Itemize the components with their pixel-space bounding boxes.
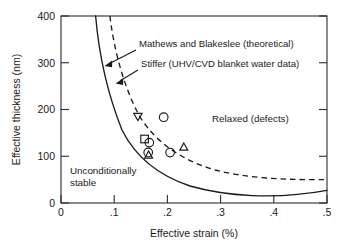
y-tick-label-2: 200 — [37, 103, 55, 115]
annotation-stiffer-label: Stiffer (UHV/CVD blanket water data) — [141, 58, 299, 69]
region-label-stable-line1: Unconditionally — [70, 165, 137, 176]
y-tick-label-4: 400 — [37, 10, 55, 22]
region-label-stable-line2: stable — [70, 177, 97, 188]
marker-circle — [159, 113, 168, 122]
y-tick-label-0: 0 — [49, 197, 55, 209]
marker-circle — [166, 148, 175, 157]
x-axis-title: Effective strain (%) — [150, 227, 238, 239]
x-tick-label-0: 0 — [58, 206, 64, 218]
x-tick-label-2: .2 — [163, 206, 172, 218]
annotation-mathews-blakeslee-label: Mathews and Blakeslee (theoretical) — [139, 38, 294, 49]
region-label-relaxed: Relaxed (defects) — [212, 113, 289, 124]
annotation-stiffer-leader — [116, 70, 139, 85]
annotation-mathews-blakeslee-leader — [105, 50, 137, 67]
y-axis-title: Effective thickness (nm) — [10, 54, 22, 165]
y-tick-label-1: 100 — [37, 150, 55, 162]
x-axis-ticks — [61, 195, 327, 203]
y-tick-label-3: 300 — [37, 57, 55, 69]
effective-thickness-vs-strain-chart: 0 .1 .2 .3 .4 .5 0 100 200 300 400 Effec… — [0, 0, 344, 251]
x-tick-label-4: .4 — [269, 206, 278, 218]
x-tick-label-3: .3 — [216, 206, 225, 218]
marker-triangle-up — [180, 143, 188, 150]
x-tick-label-1: .1 — [110, 206, 119, 218]
x-tick-label-5: .5 — [323, 206, 332, 218]
chart-container: 0 .1 .2 .3 .4 .5 0 100 200 300 400 Effec… — [0, 0, 344, 251]
